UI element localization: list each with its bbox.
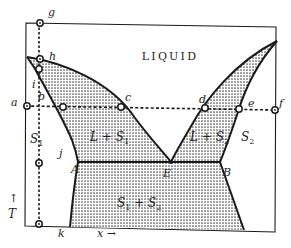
- label-l-plus-s2: L + S2: [189, 130, 229, 146]
- marker-i: [36, 66, 42, 72]
- label-g: g: [48, 6, 55, 19]
- label-j: j: [56, 147, 63, 160]
- label-s1: S1: [30, 132, 43, 148]
- label-e: e: [248, 97, 255, 110]
- label-A: A: [70, 163, 79, 176]
- label-B: B: [222, 166, 231, 179]
- phase-diagram: LIQUID L + S1 L + S2 S1 S2 S1 + S2 g h i…: [0, 0, 291, 248]
- label-d: d: [199, 93, 206, 106]
- label-h: h: [49, 50, 56, 63]
- eutectic-point-E: [169, 160, 173, 164]
- marker-c: [118, 104, 124, 110]
- y-axis-label: T: [8, 207, 17, 221]
- label-c: c: [125, 91, 131, 104]
- label-l-plus-s1: L + S1: [89, 130, 129, 146]
- y-axis-arrow-icon: ↑: [9, 192, 18, 205]
- label-a: a: [11, 96, 18, 109]
- label-b: b: [38, 90, 45, 103]
- x-axis-label: x →: [97, 227, 116, 240]
- region-l-plus-s1: [27, 57, 171, 162]
- label-f: f: [278, 97, 285, 110]
- label-s2: S2: [241, 130, 254, 146]
- label-k: k: [58, 227, 65, 240]
- label-s1-plus-s2: S1 + S2: [117, 196, 161, 212]
- label-liquid: LIQUID: [142, 50, 198, 63]
- label-E: E: [162, 167, 171, 180]
- label-i: i: [32, 78, 36, 91]
- marker-e: [236, 106, 242, 112]
- region-s1-plus-s2: [70, 162, 244, 230]
- marker-b: [60, 104, 66, 110]
